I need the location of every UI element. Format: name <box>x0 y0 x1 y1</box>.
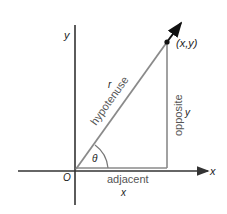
x-axis-label: x <box>209 165 216 177</box>
angle-symbol: θ <box>92 153 98 164</box>
adjacent-symbol: x <box>120 187 127 198</box>
opposite-label: opposite <box>172 94 184 136</box>
opposite-symbol: y <box>184 107 191 118</box>
unit-triangle-diagram: y x O (x,y) r hypotenuse opposite y adja… <box>0 0 227 214</box>
adjacent-label: adjacent <box>107 173 149 185</box>
point-marker <box>164 39 169 44</box>
y-axis-label: y <box>63 29 71 41</box>
hypotenuse-side <box>76 42 167 169</box>
point-label: (x,y) <box>176 37 198 49</box>
origin-label: O <box>63 172 71 183</box>
